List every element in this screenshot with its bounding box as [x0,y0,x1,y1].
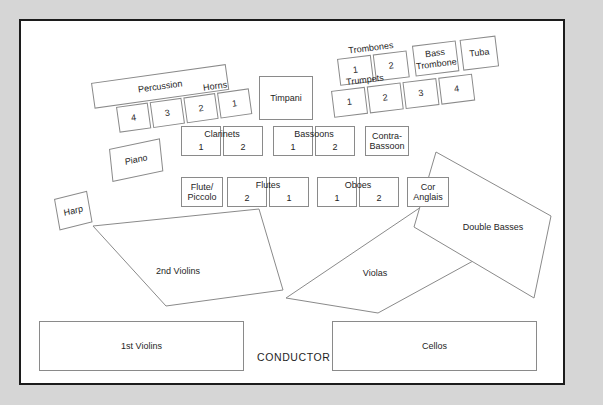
contra-bassoon-line2: Bassoon [369,141,404,151]
conductor-label: CONDUCTOR [257,351,330,363]
horn-desk-2[interactable]: 2 [183,93,218,123]
second-violins-shape[interactable] [93,209,283,306]
horn-desk-3[interactable]: 3 [150,98,185,128]
orchestra-stage-frame: 2nd Violins Violas Double Basses Percuss… [19,19,565,385]
flute-piccolo-line1: Flute/ [191,182,214,192]
horn-desk-4[interactable]: 4 [116,103,151,133]
cor-anglais-line2: Anglais [413,192,443,202]
trumpet-desk-1[interactable]: 1 [331,87,368,118]
contra-bassoon-line1: Contra- [372,131,402,141]
double-basses-label: Double Basses [463,222,524,232]
oboes-label: Oboes [317,180,399,190]
flute-piccolo-box[interactable]: Flute/ Piccolo [181,177,223,207]
clarinets-label: Clarinets [181,129,263,139]
second-violins-label: 2nd Violins [156,266,200,276]
trumpet-desk-4[interactable]: 4 [438,74,475,105]
trumpet-desk-3[interactable]: 3 [402,78,439,109]
tuba-box[interactable]: Tuba [460,36,500,71]
timpani-box[interactable]: Timpani [259,76,313,120]
cellos-box[interactable]: Cellos [332,321,537,371]
contra-bassoon-box[interactable]: Contra- Bassoon [365,126,409,156]
cor-anglais-box[interactable]: Cor Anglais [407,177,449,207]
flutes-label: Flutes [227,180,309,190]
first-violins-box[interactable]: 1st Violins [39,321,244,371]
bass-trombone-box[interactable]: Bass Trombone [412,40,459,76]
bass-trombone-line2: Trombone [415,56,457,71]
bassoons-label: Bassoons [273,129,355,139]
horn-desk-1[interactable]: 1 [217,88,252,118]
trumpet-desk-2[interactable]: 2 [367,82,404,113]
orchestra-stage: 2nd Violins Violas Double Basses Percuss… [21,21,563,383]
flute-piccolo-line2: Piccolo [187,192,216,202]
violas-label: Violas [363,268,387,278]
cor-anglais-line1: Cor [421,182,436,192]
